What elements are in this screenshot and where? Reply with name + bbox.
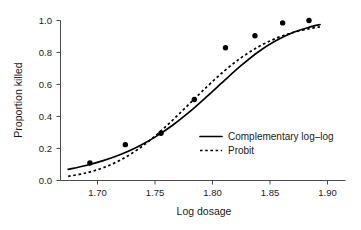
- chart-legend: Complementary log–log Probit: [200, 131, 334, 156]
- x-tick-label: 1.75: [146, 187, 165, 198]
- legend-label-complementary-log-log: Complementary log–log: [228, 131, 334, 142]
- x-tick-label: 1.70: [88, 187, 107, 198]
- x-tick-label: 1.90: [318, 187, 337, 198]
- chart-plot-area: 0.0 0.2 0.4 0.6 0.8 1.0 1.70 1.75 1.80 1…: [0, 0, 361, 230]
- data-point: [192, 97, 197, 102]
- x-axis-ticks: [98, 181, 328, 185]
- y-axis-ticks: [57, 21, 61, 181]
- data-point: [123, 142, 128, 147]
- x-axis-tick-labels: 1.70 1.75 1.80 1.85 1.90: [88, 187, 337, 198]
- data-point: [87, 160, 92, 165]
- y-tick-label: 1.0: [39, 15, 52, 26]
- y-tick-label: 0.8: [39, 47, 52, 58]
- data-point: [223, 45, 228, 50]
- y-axis-tick-labels: 0.0 0.2 0.4 0.6 0.8 1.0: [39, 15, 52, 186]
- data-point: [280, 20, 285, 25]
- data-point: [252, 33, 257, 38]
- x-tick-label: 1.85: [261, 187, 280, 198]
- data-point: [306, 18, 311, 23]
- x-axis-title: Log dosage: [177, 205, 232, 217]
- legend-label-probit: Probit: [228, 145, 254, 156]
- y-tick-label: 0.4: [39, 111, 52, 122]
- y-tick-label: 0.0: [39, 175, 52, 186]
- chart-figure: 0.0 0.2 0.4 0.6 0.8 1.0 1.70 1.75 1.80 1…: [0, 0, 361, 230]
- data-point: [158, 131, 163, 136]
- y-axis-title: Proportion killed: [12, 62, 24, 137]
- y-tick-label: 0.6: [39, 79, 52, 90]
- x-tick-label: 1.80: [203, 187, 222, 198]
- y-tick-label: 0.2: [39, 143, 52, 154]
